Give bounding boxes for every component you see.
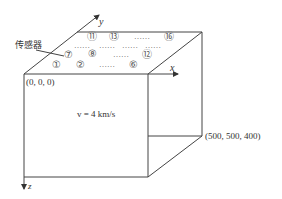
z-axis-label: z: [27, 181, 32, 191]
sensor-row-front: ① ② …… ⑥: [52, 59, 138, 70]
sensor-marker: ⑫: [142, 49, 152, 60]
far-corner-label: (500, 500, 400): [205, 131, 261, 141]
sensor-marker: ⑯: [164, 31, 174, 42]
sensor-ellipsis: ……: [99, 60, 115, 69]
sensor-marker: ②: [76, 59, 85, 70]
sensor-callout-leader: [36, 50, 64, 56]
sensor-ellipsis: ……: [99, 41, 115, 50]
top-right-diagonal: [148, 32, 202, 74]
origin-label: (0, 0, 0): [26, 77, 55, 87]
sensor-marker: ①: [52, 59, 61, 70]
sensor-marker: ⑧: [88, 48, 97, 59]
sensor-cube-diagram: y x z (0, 0, 0) (500, 500, 400) v = 4 km…: [0, 0, 282, 199]
sensor-marker: ⑦: [64, 49, 73, 60]
bottom-right-diagonal: [148, 136, 202, 177]
y-axis-label: y: [98, 16, 104, 27]
sensor-ellipsis: ……: [122, 41, 138, 50]
velocity-label: v = 4 km/s: [77, 109, 116, 119]
sensor-callout-label: 传感器: [15, 39, 42, 50]
sensor-ellipsis: ……: [134, 32, 150, 41]
x-axis-label: x: [169, 62, 175, 73]
sensor-ellipsis: ……: [113, 50, 129, 59]
sensor-marker: ⑥: [129, 59, 138, 70]
